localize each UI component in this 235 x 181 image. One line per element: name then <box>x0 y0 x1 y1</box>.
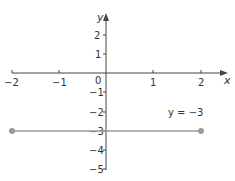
line-annotation: y = −3 <box>168 107 203 118</box>
y-axis-label: y <box>96 11 104 24</box>
y-tick-label: 2 <box>94 30 100 41</box>
endpoint-dot-icon <box>9 128 15 134</box>
coordinate-plot: y x −2 −1 0 1 2 2 1 −1 −2 −3 −4 −5 y = −… <box>0 0 235 181</box>
x-tick-label: −1 <box>52 77 67 88</box>
x-tick-label: 2 <box>198 77 204 88</box>
endpoint-dot-icon <box>198 128 204 134</box>
x-tick-label: −2 <box>4 77 19 88</box>
x-axis-label: x <box>223 74 231 87</box>
y-tick-label: −1 <box>89 87 104 98</box>
x-tick-label: 1 <box>150 77 156 88</box>
origin-label: 0 <box>95 75 101 86</box>
y-tick-label: 1 <box>95 49 101 60</box>
y-tick-label: −5 <box>89 164 104 175</box>
y-axis <box>103 13 109 170</box>
y-tick-label: −2 <box>89 107 104 118</box>
y-tick-label: −4 <box>89 145 104 156</box>
x-axis <box>12 70 228 76</box>
y-axis-arrow-icon <box>103 13 109 21</box>
